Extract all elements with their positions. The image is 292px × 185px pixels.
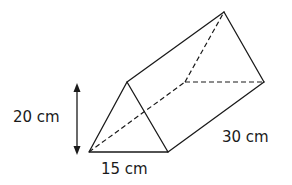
prism-drawing — [0, 0, 292, 185]
height-arrow — [74, 83, 81, 155]
base-label: 15 cm — [101, 162, 148, 177]
hidden-bottom-left-edge — [89, 82, 185, 152]
top-ridge-edge — [127, 12, 224, 82]
length-label: 30 cm — [222, 130, 269, 145]
prism-diagram: 20 cm 15 cm 30 cm — [0, 0, 292, 185]
height-label: 20 cm — [13, 110, 60, 125]
back-right-edge — [224, 12, 264, 82]
hidden-back-left-edge — [185, 12, 224, 82]
front-triangle-face — [89, 82, 168, 152]
